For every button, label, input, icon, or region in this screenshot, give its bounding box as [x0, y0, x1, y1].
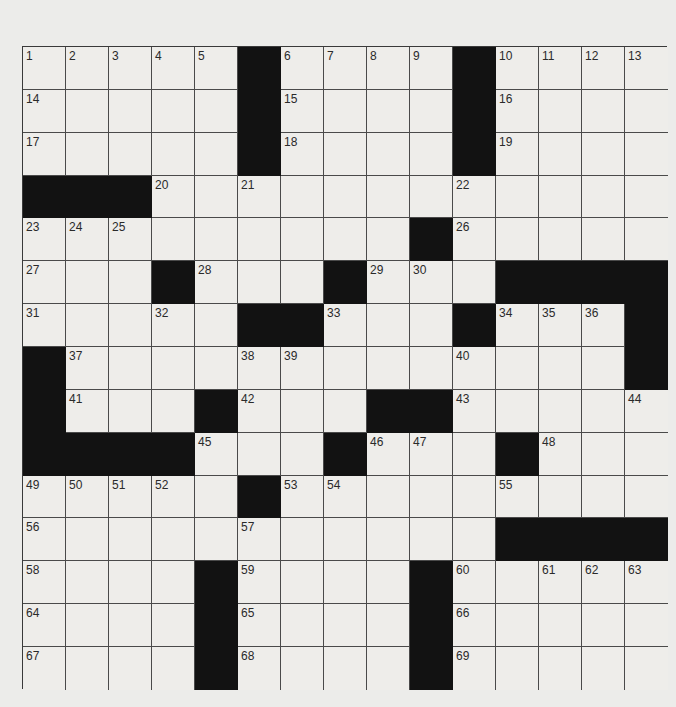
grid-cell[interactable]: 27	[23, 261, 66, 304]
grid-cell[interactable]	[367, 518, 410, 561]
grid-cell[interactable]: 5	[195, 47, 238, 90]
grid-cell[interactable]	[367, 90, 410, 133]
grid-cell[interactable]: 56	[23, 518, 66, 561]
grid-cell[interactable]: 53	[281, 476, 324, 519]
grid-cell[interactable]: 61	[539, 561, 582, 604]
grid-cell[interactable]: 37	[66, 347, 109, 390]
grid-cell[interactable]	[367, 647, 410, 690]
grid-cell[interactable]	[539, 133, 582, 176]
grid-cell[interactable]: 28	[195, 261, 238, 304]
grid-cell[interactable]: 68	[238, 647, 281, 690]
grid-cell[interactable]: 66	[453, 604, 496, 647]
grid-cell[interactable]	[539, 347, 582, 390]
grid-cell[interactable]	[281, 390, 324, 433]
grid-cell[interactable]	[66, 90, 109, 133]
grid-cell[interactable]	[410, 176, 453, 219]
grid-cell[interactable]	[496, 218, 539, 261]
grid-cell[interactable]: 59	[238, 561, 281, 604]
grid-cell[interactable]: 24	[66, 218, 109, 261]
grid-cell[interactable]	[539, 476, 582, 519]
grid-cell[interactable]	[152, 518, 195, 561]
grid-cell[interactable]: 55	[496, 476, 539, 519]
grid-cell[interactable]	[367, 347, 410, 390]
grid-cell[interactable]: 34	[496, 304, 539, 347]
grid-cell[interactable]	[453, 433, 496, 476]
grid-cell[interactable]	[410, 133, 453, 176]
grid-cell[interactable]	[195, 347, 238, 390]
grid-cell[interactable]: 60	[453, 561, 496, 604]
grid-cell[interactable]	[195, 304, 238, 347]
grid-cell[interactable]: 38	[238, 347, 281, 390]
grid-cell[interactable]: 26	[453, 218, 496, 261]
grid-cell[interactable]: 48	[539, 433, 582, 476]
grid-cell[interactable]	[238, 218, 281, 261]
grid-cell[interactable]	[367, 561, 410, 604]
grid-cell[interactable]: 65	[238, 604, 281, 647]
grid-cell[interactable]: 7	[324, 47, 367, 90]
grid-cell[interactable]: 29	[367, 261, 410, 304]
grid-cell[interactable]	[367, 476, 410, 519]
grid-cell[interactable]	[195, 176, 238, 219]
grid-cell[interactable]	[152, 133, 195, 176]
grid-cell[interactable]	[109, 561, 152, 604]
grid-cell[interactable]	[152, 561, 195, 604]
grid-cell[interactable]	[195, 90, 238, 133]
grid-cell[interactable]	[539, 90, 582, 133]
grid-cell[interactable]	[539, 390, 582, 433]
grid-cell[interactable]: 42	[238, 390, 281, 433]
grid-cell[interactable]	[324, 176, 367, 219]
grid-cell[interactable]	[281, 176, 324, 219]
grid-cell[interactable]	[625, 604, 668, 647]
grid-cell[interactable]: 1	[23, 47, 66, 90]
grid-cell[interactable]	[410, 347, 453, 390]
grid-cell[interactable]: 2	[66, 47, 109, 90]
grid-cell[interactable]: 4	[152, 47, 195, 90]
grid-cell[interactable]	[109, 647, 152, 690]
grid-cell[interactable]: 18	[281, 133, 324, 176]
grid-cell[interactable]: 35	[539, 304, 582, 347]
grid-cell[interactable]	[281, 433, 324, 476]
grid-cell[interactable]	[410, 90, 453, 133]
grid-cell[interactable]	[367, 604, 410, 647]
grid-cell[interactable]	[195, 218, 238, 261]
grid-cell[interactable]	[582, 433, 625, 476]
grid-cell[interactable]	[281, 518, 324, 561]
grid-cell[interactable]: 36	[582, 304, 625, 347]
grid-cell[interactable]	[109, 518, 152, 561]
grid-cell[interactable]	[582, 90, 625, 133]
grid-cell[interactable]	[195, 133, 238, 176]
grid-cell[interactable]	[539, 218, 582, 261]
grid-cell[interactable]: 11	[539, 47, 582, 90]
grid-cell[interactable]: 17	[23, 133, 66, 176]
grid-cell[interactable]	[539, 647, 582, 690]
grid-cell[interactable]	[152, 90, 195, 133]
grid-cell[interactable]	[238, 433, 281, 476]
grid-cell[interactable]	[625, 176, 668, 219]
grid-cell[interactable]: 50	[66, 476, 109, 519]
grid-cell[interactable]	[625, 647, 668, 690]
grid-cell[interactable]: 6	[281, 47, 324, 90]
grid-cell[interactable]	[453, 476, 496, 519]
grid-cell[interactable]	[582, 604, 625, 647]
grid-cell[interactable]: 46	[367, 433, 410, 476]
grid-cell[interactable]: 64	[23, 604, 66, 647]
grid-cell[interactable]: 31	[23, 304, 66, 347]
grid-cell[interactable]	[625, 133, 668, 176]
grid-cell[interactable]: 19	[496, 133, 539, 176]
grid-cell[interactable]	[453, 518, 496, 561]
grid-cell[interactable]	[109, 90, 152, 133]
grid-cell[interactable]	[496, 390, 539, 433]
grid-cell[interactable]	[625, 433, 668, 476]
grid-cell[interactable]: 3	[109, 47, 152, 90]
grid-cell[interactable]: 32	[152, 304, 195, 347]
grid-cell[interactable]	[539, 176, 582, 219]
grid-cell[interactable]: 41	[66, 390, 109, 433]
grid-cell[interactable]: 45	[195, 433, 238, 476]
grid-cell[interactable]	[582, 218, 625, 261]
grid-cell[interactable]: 15	[281, 90, 324, 133]
grid-cell[interactable]	[66, 261, 109, 304]
grid-cell[interactable]	[109, 304, 152, 347]
grid-cell[interactable]: 9	[410, 47, 453, 90]
grid-cell[interactable]	[324, 518, 367, 561]
grid-cell[interactable]	[152, 347, 195, 390]
